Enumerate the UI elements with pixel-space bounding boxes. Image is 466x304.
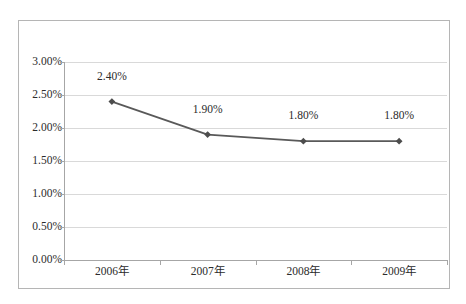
data-point-marker [204,131,211,138]
line-series [64,62,447,260]
data-point-label: 1.80% [384,110,414,122]
y-axis-tick-label: 2.00% [32,122,62,134]
y-axis-tick-labels: 3.00%2.50%2.00%1.50%1.00%0.50%0.00% [19,62,62,260]
plot-area: 2.40%1.90%1.80%1.80% [64,62,447,260]
x-axis-tick-mark [160,260,161,265]
y-axis-tick-label: 2.50% [32,89,62,101]
chart-screenshot: 3.00%2.50%2.00%1.50%1.00%0.50%0.00% 2.40… [0,0,466,304]
x-axis-tick-label: 2006年 [64,266,160,278]
x-axis-tick-label: 2007年 [160,266,256,278]
chart-frame: 3.00%2.50%2.00%1.50%1.00%0.50%0.00% 2.40… [18,20,450,289]
x-axis-tick-label: 2008年 [256,266,352,278]
y-axis-tick-label: 3.00% [32,56,62,68]
data-point-label: 1.90% [193,104,223,116]
data-point-marker [396,138,403,145]
y-axis-tick-label: 0.00% [32,254,62,266]
y-axis-tick-label: 0.50% [32,221,62,233]
x-axis-tick-mark [447,260,448,265]
data-point-marker [300,138,307,145]
x-axis-tick-labels: 2006年2007年2008年2009年 [64,266,447,282]
data-point-marker [108,98,115,105]
x-axis-tick-label: 2009年 [351,266,447,278]
x-axis-tick-mark [351,260,352,265]
y-axis-tick-label: 1.50% [32,155,62,167]
data-point-label: 1.80% [289,110,319,122]
data-point-label: 2.40% [97,71,127,83]
x-axis-tick-mark [256,260,257,265]
y-axis-tick-label: 1.00% [32,188,62,200]
x-axis-tick-mark [64,260,65,265]
